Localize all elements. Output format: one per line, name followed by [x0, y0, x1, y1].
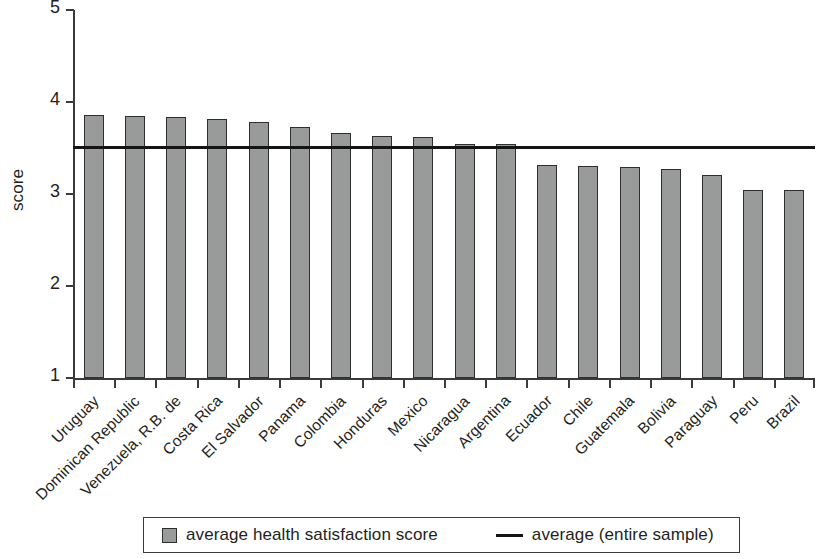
y-axis-tick: 1: [66, 377, 74, 379]
plot-area: 12345: [73, 10, 815, 378]
y-axis-tick: 4: [66, 101, 74, 103]
bar: [290, 127, 310, 378]
x-axis-tick: [155, 380, 157, 388]
y-axis-tick-label: 3: [36, 181, 60, 202]
bar: [413, 137, 433, 378]
x-axis-tick: [279, 380, 281, 388]
bar: [166, 117, 186, 378]
x-axis-tick: [733, 380, 735, 388]
bar: [578, 166, 598, 378]
bar: [537, 165, 557, 378]
y-axis-tick-label: 2: [36, 273, 60, 294]
x-axis-tick: [485, 380, 487, 388]
y-axis-tick: 5: [66, 9, 74, 11]
x-axis-category-labels: UruguayDominican RepublicVenezuela, R.B.…: [0, 388, 820, 498]
chart-legend: average health satisfaction score averag…: [143, 517, 740, 553]
y-axis-tick: 2: [66, 285, 74, 287]
bar: [372, 136, 392, 378]
y-axis-tick-label: 4: [36, 89, 60, 110]
x-axis-tick: [609, 380, 611, 388]
average-line: [73, 146, 815, 149]
bar: [661, 169, 681, 378]
y-axis-tick-label: 5: [36, 0, 60, 18]
bar: [125, 116, 145, 378]
x-axis-tick: [444, 380, 446, 388]
bar: [84, 115, 104, 378]
x-axis-tick: [114, 380, 116, 388]
legend-label: average (entire sample): [532, 525, 714, 545]
legend-item-average-health-satisfaction-score: average health satisfaction score: [162, 525, 438, 545]
bar: [743, 190, 763, 378]
x-axis-tick: [568, 380, 570, 388]
x-axis-tick: [73, 380, 75, 388]
x-axis-tick: [691, 380, 693, 388]
x-axis-tick: [197, 380, 199, 388]
legend-item-average-entire-sample: average (entire sample): [496, 525, 714, 545]
bar: [331, 133, 351, 378]
bar: [620, 167, 640, 378]
x-axis-tick: [362, 380, 364, 388]
bar: [455, 144, 475, 378]
x-axis-tick: [526, 380, 528, 388]
y-axis-tick: 3: [66, 193, 74, 195]
legend-label: average health satisfaction score: [186, 525, 438, 545]
health-satisfaction-bar-chart: score 12345 UruguayDominican RepublicVen…: [0, 0, 820, 559]
x-axis-tick: [813, 380, 815, 388]
bar: [702, 175, 722, 378]
y-axis-tick-label: 1: [36, 365, 60, 386]
bar: [207, 119, 227, 378]
y-axis-title: score: [8, 150, 28, 230]
bar-swatch-icon: [162, 528, 177, 543]
x-axis-tick: [774, 380, 776, 388]
line-dash-icon: [496, 534, 523, 537]
bar: [496, 144, 516, 378]
bar: [784, 190, 804, 378]
x-axis-label: Peru: [726, 392, 762, 428]
x-axis-tick: [650, 380, 652, 388]
x-axis-tick: [403, 380, 405, 388]
bar: [249, 122, 269, 378]
x-axis-tick: [320, 380, 322, 388]
x-axis-label: Brazil: [763, 392, 804, 433]
x-axis-tick: [238, 380, 240, 388]
